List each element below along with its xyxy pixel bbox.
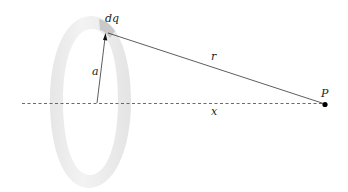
label-P: P bbox=[321, 88, 328, 99]
label-r: r bbox=[211, 51, 216, 62]
field-point-P bbox=[322, 102, 327, 107]
distance-line-r bbox=[108, 33, 325, 104]
charged-ring bbox=[50, 16, 131, 188]
label-a: a bbox=[92, 66, 99, 77]
ring-diagram bbox=[0, 0, 348, 192]
label-x: x bbox=[211, 106, 217, 117]
label-dq: dq bbox=[105, 13, 119, 24]
